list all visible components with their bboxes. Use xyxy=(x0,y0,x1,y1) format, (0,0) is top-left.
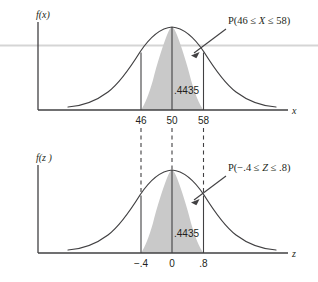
top-annotation-arrowhead xyxy=(191,52,200,58)
bottom-prob-rel2: ≤ xyxy=(268,162,279,173)
top-panel xyxy=(38,22,288,110)
bottom-prob-upper: .8 xyxy=(279,162,287,173)
top-tick-label-mean: 50 xyxy=(166,115,178,126)
top-x-axis-label: x xyxy=(291,105,297,116)
top-prob-upper: 58 xyxy=(276,15,287,26)
bottom-area-label: .4435 xyxy=(174,228,199,239)
bottom-tick-label-upper: .8 xyxy=(199,258,208,269)
bottom-prob-suffix: ) xyxy=(287,162,291,174)
top-probability-label: P(46 ≤ X ≤ 58) xyxy=(228,15,291,27)
bottom-y-axis-label: f(z ) xyxy=(36,152,53,164)
top-prob-suffix: ) xyxy=(287,15,291,27)
bottom-prob-rel1: ≤ xyxy=(251,162,262,173)
top-annotation-leader xyxy=(194,29,226,53)
top-prob-rel1: ≤ xyxy=(248,15,259,26)
bottom-x-axis-label: z xyxy=(291,248,296,259)
bottom-tick-label-lower: −.4 xyxy=(134,258,149,269)
bottom-annotation-arrowhead xyxy=(191,199,200,205)
top-tick-label-upper: 58 xyxy=(198,115,210,126)
top-area-label: .4435 xyxy=(174,85,199,96)
bottom-panel xyxy=(38,165,288,253)
bottom-prob-lower: −.4 xyxy=(237,162,252,173)
top-prob-lower: 46 xyxy=(237,15,248,26)
top-tick-label-lower: 46 xyxy=(135,115,147,126)
bottom-probability-label: P(−.4 ≤ Z ≤ .8) xyxy=(228,162,291,174)
normal-distribution-figure: f(x) x .4435 46 50 58 P(46 ≤ X ≤ 58) f(z… xyxy=(0,0,318,282)
top-prob-rel2: ≤ xyxy=(265,15,276,26)
bottom-tick-label-mean: 0 xyxy=(169,258,175,269)
top-y-axis-label: f(x) xyxy=(36,9,51,21)
